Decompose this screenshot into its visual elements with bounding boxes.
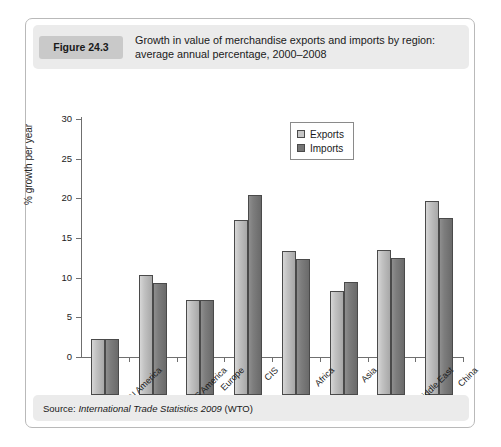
y-tick-label: 25 [61, 153, 72, 164]
figure-footer: Source: International Trade Statistics 2… [33, 395, 469, 421]
x-tick [463, 357, 464, 362]
bar-imports-middle-east [391, 258, 405, 395]
y-tick-10: 10 [76, 278, 81, 279]
legend-item-exports: Exports [297, 127, 344, 141]
x-tick [415, 357, 416, 362]
bar-exports-europe [186, 300, 200, 395]
bar-group [425, 113, 453, 395]
bar-imports-africa [296, 259, 310, 395]
y-tick-25: 25 [76, 159, 81, 160]
bar-exports-china [425, 201, 439, 395]
figure-header: Figure 24.3 Growth in value of merchandi… [33, 25, 469, 69]
y-tick-label: 10 [61, 272, 72, 283]
x-tick [177, 357, 178, 362]
source-note: Source: International Trade Statistics 2… [43, 403, 253, 414]
chart-plot-area: % growth per year 051015202530 N America… [33, 75, 469, 395]
source-suffix: (WTO) [225, 403, 253, 414]
y-axis-line [81, 117, 82, 358]
legend-label-exports: Exports [310, 129, 344, 140]
source-prefix: Source: [43, 403, 76, 414]
figure-caption: Growth in value of merchandise exports a… [135, 33, 469, 62]
bar-group [91, 113, 119, 395]
bar-exports-n-america [91, 339, 105, 395]
bar-exports-asia [330, 291, 344, 395]
figure-panel: Figure 24.3 Growth in value of merchandi… [25, 18, 475, 428]
x-tick [224, 357, 225, 362]
y-tick-20: 20 [76, 198, 81, 199]
legend-swatch-exports-icon [297, 130, 305, 138]
x-tick [368, 357, 369, 362]
bar-group [234, 113, 262, 395]
y-axis-title: % growth per year [23, 124, 34, 205]
bar-group [186, 113, 214, 395]
bar-imports-asia [344, 282, 358, 395]
y-tick-0: 0 [76, 357, 81, 358]
x-tick [272, 357, 273, 362]
y-tick-label: 0 [67, 351, 72, 362]
legend-label-imports: Imports [310, 143, 343, 154]
y-tick-label: 20 [61, 192, 72, 203]
y-tick-label: 15 [61, 232, 72, 243]
y-tick-label: 30 [61, 113, 72, 124]
bar-imports-n-america [105, 339, 119, 395]
bar-group [377, 113, 405, 395]
figure-number-badge: Figure 24.3 [39, 36, 123, 59]
y-tick-5: 5 [76, 317, 81, 318]
legend-item-imports: Imports [297, 141, 344, 155]
x-tick [320, 357, 321, 362]
y-tick-15: 15 [76, 238, 81, 239]
chart-legend: Exports Imports [290, 122, 354, 160]
x-axis-label-asia: Asia [359, 365, 378, 384]
source-title: International Trade Statistics 2009 [78, 403, 221, 414]
bar-imports-cis [248, 195, 262, 395]
bar-group [139, 113, 167, 395]
y-tick-30: 30 [76, 119, 81, 120]
legend-swatch-imports-icon [297, 144, 305, 152]
x-tick [129, 357, 130, 362]
bar-exports-middle-east [377, 250, 391, 395]
y-tick-label: 5 [67, 311, 72, 322]
bar-exports-africa [282, 251, 296, 395]
x-axis-label-cis: CIS [262, 365, 280, 383]
x-axis-label-china: China [456, 365, 480, 389]
